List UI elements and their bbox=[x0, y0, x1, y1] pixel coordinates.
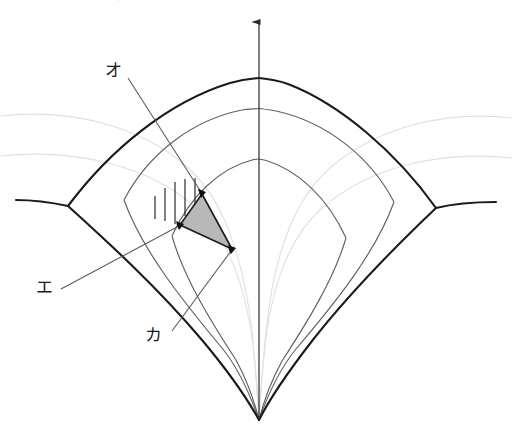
faint-arc-1 bbox=[0, 114, 259, 420]
inner-arch-inner-right-tail bbox=[259, 238, 346, 420]
inner-arch-inner-right bbox=[259, 159, 346, 238]
inner-arch-outer-right bbox=[259, 109, 394, 203]
faint-background-arcs bbox=[0, 114, 512, 420]
outer-curve-group bbox=[16, 78, 496, 420]
outer-curve-right-base bbox=[436, 202, 496, 208]
faint-arc-1-mirror bbox=[259, 116, 512, 420]
diagram-page: 点を含む鉛直面内で，円弧中心を結ぶ直線に対する角度を bbox=[0, 0, 512, 441]
outer-curve-left-base bbox=[16, 200, 68, 206]
label-o: オ bbox=[105, 62, 122, 79]
leader-line-e bbox=[61, 226, 179, 289]
geometry-diagram bbox=[0, 0, 512, 441]
outer-curve-left-rising bbox=[68, 78, 259, 206]
label-ka: カ bbox=[145, 327, 162, 344]
faint-arc-2-mirror bbox=[259, 156, 512, 420]
outer-curve-right-descending bbox=[259, 208, 436, 420]
leader-line-ka bbox=[172, 251, 231, 331]
outer-curve-right-rising bbox=[259, 78, 436, 208]
label-e: エ bbox=[36, 279, 53, 296]
shaded-triangle bbox=[180, 194, 232, 249]
outer-curve-left-descending bbox=[68, 206, 259, 420]
inner-arch-inner-left-tail bbox=[172, 236, 259, 420]
inner-arch-outer-left bbox=[124, 109, 259, 201]
leader-line-o bbox=[128, 78, 201, 192]
